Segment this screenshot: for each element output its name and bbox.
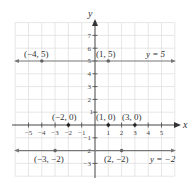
point-3-0 [133,123,137,127]
line-arrow-right-icon [171,59,176,63]
tick-label: 7 [88,32,92,40]
tick-label: −3 [51,129,59,137]
tick-label: −1 [84,134,92,142]
line-label-y-minus-2: y = −2 [149,154,176,164]
line-arrow-left-icon [14,59,19,63]
label-point-1-5: (1, 5) [96,49,116,59]
label-point-m3-m2: (−3, −2) [34,154,64,164]
tick-label: 6 [88,45,92,53]
label-point-3-0: (3, 0) [122,112,142,122]
tick-label: 3 [133,129,137,137]
x-tick-labels: −5 −4 −3 −2 −1 1 2 3 4 5 [25,129,164,137]
tick-label: 5 [160,129,164,137]
x-axis-arrow-icon [174,122,181,128]
tick-label: −5 [25,129,33,137]
label-point-1-0: (1, 0) [96,112,116,122]
y-tick-labels: 7 6 5 4 3 2 1 −1 −2 −3 [84,32,94,168]
tick-label: −4 [38,129,46,137]
label-point-m2-0: (−2, 0) [52,112,77,122]
line-label-y-5: y = 5 [145,49,166,59]
tick-label: 1 [90,108,94,116]
tick-label: 4 [146,129,150,137]
tick-label: 1 [107,129,111,137]
point-m2-0 [67,123,71,127]
line-arrow-left-icon [14,149,19,153]
point-m3-m2 [53,149,57,153]
coordinate-plane: −5 −4 −3 −2 −1 1 2 3 4 5 7 6 5 4 3 2 1 −… [0,0,196,187]
tick-label: 2 [120,129,124,137]
tick-label: 3 [88,83,92,91]
point-2-m2 [120,149,124,153]
line-arrow-right-icon [171,149,176,153]
point-1-5 [107,59,111,63]
tick-label: −3 [84,160,92,168]
tick-label: 2 [88,96,92,104]
label-point-m4-5: (−4, 5) [24,49,49,59]
label-point-2-m2: (2, −2) [104,154,129,164]
tick-label: −2 [65,129,73,137]
x-axis-label: x [182,119,188,130]
tick-label: 4 [88,70,92,78]
point-1-0 [107,123,111,127]
y-axis-label: y [87,8,93,19]
point-m4-5 [40,59,44,63]
